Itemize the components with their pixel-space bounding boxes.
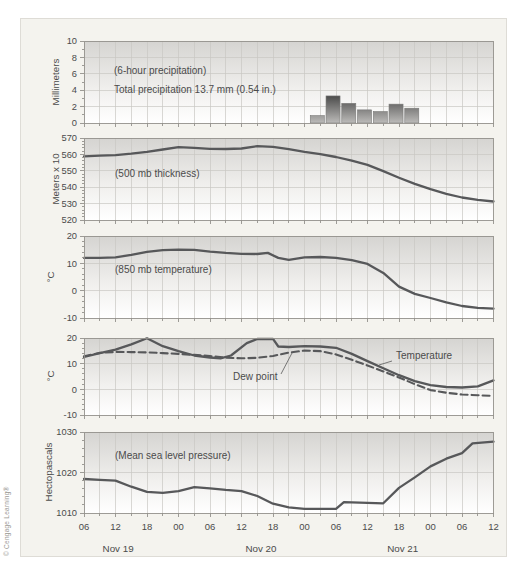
dew-point-label: Dew point: [233, 371, 278, 382]
date-label: Nov 20: [245, 543, 277, 554]
panel-500-mb-thickness: 520530540550560570Meters x 10(500 mb thi…: [50, 133, 494, 225]
panel-850-mb-temperature: -1001020°C(850 mb temperature): [45, 231, 494, 323]
x-tick-label: 06: [79, 521, 90, 532]
x-tick-label: 18: [394, 521, 405, 532]
y-axis-label: °C: [45, 371, 56, 382]
x-tick-label: 00: [299, 521, 310, 532]
copyright-label: © Cengage Learning®: [3, 486, 10, 556]
panel-annotation: (6-hour precipitation): [114, 65, 206, 76]
y-tick-label: 530: [61, 199, 77, 209]
x-tick-label: 12: [110, 521, 121, 532]
panel-mean-sea-level-pressure: 101010201030Hectopascals(Mean sea level …: [43, 427, 494, 518]
panel-annotation: (Mean sea level pressure): [115, 450, 231, 461]
x-tick-label: 12: [236, 521, 247, 532]
y-tick-label: 560: [61, 150, 77, 160]
y-tick-label: 520: [61, 215, 77, 225]
precip-bar: [326, 96, 340, 123]
panel-annotation: (850 mb temperature): [115, 264, 212, 275]
x-axis: 0612180006121800061218000612Nov 19Nov 20…: [79, 521, 499, 554]
panel-annotation: Total precipitation 13.7 mm (0.54 in.): [114, 84, 276, 95]
y-tick-label: 10: [67, 36, 77, 46]
y-tick-label: 6: [72, 69, 77, 79]
x-tick-label: 06: [331, 521, 342, 532]
x-tick-label: 00: [173, 521, 184, 532]
y-tick-label: 550: [61, 166, 77, 176]
y-tick-label: 0: [72, 286, 77, 296]
meteogram-figure: 0246810Millimeters(6-hour precipitation)…: [20, 18, 507, 557]
y-tick-label: 570: [61, 133, 77, 143]
precip-bar: [389, 104, 403, 123]
y-tick-label: 1020: [56, 468, 77, 478]
y-axis-label: Millimeters: [50, 58, 61, 105]
y-tick-label: 20: [67, 333, 77, 343]
y-tick-label: -10: [64, 313, 77, 323]
y-tick-label: 10: [67, 259, 77, 269]
x-tick-label: 12: [362, 521, 373, 532]
y-tick-label: -10: [64, 410, 77, 420]
y-tick-label: 1030: [56, 427, 77, 437]
y-tick-label: 4: [72, 85, 77, 95]
y-tick-label: 10: [67, 359, 77, 369]
panel-annotation: (500 mb thickness): [115, 168, 199, 179]
temperature-label: Temperature: [396, 350, 453, 361]
precip-bar: [342, 103, 356, 123]
y-axis-label: Hectopascals: [43, 442, 54, 501]
panel-6-hour-precipitation: 0246810Millimeters(6-hour precipitation)…: [50, 36, 494, 128]
y-tick-label: 0: [72, 118, 77, 128]
precip-bar: [358, 110, 372, 123]
x-tick-label: 12: [488, 521, 499, 532]
y-axis-label: Meters x 10: [50, 153, 61, 205]
y-axis-label: °C: [45, 272, 56, 283]
y-tick-label: 1010: [56, 508, 77, 518]
y-tick-label: 540: [61, 182, 77, 192]
x-tick-label: 00: [425, 521, 436, 532]
date-label: Nov 19: [103, 543, 134, 554]
date-label: Nov 21: [387, 543, 418, 554]
panel-temperature-and-dew-point: -1001020°CTemperatureDew point: [45, 333, 494, 420]
x-tick-label: 18: [142, 521, 153, 532]
meteogram-svg: 0246810Millimeters(6-hour precipitation)…: [21, 19, 508, 558]
precip-bar: [405, 108, 419, 123]
x-tick-label: 18: [268, 521, 279, 532]
y-tick-label: 8: [72, 53, 77, 63]
x-tick-label: 06: [457, 521, 468, 532]
precip-bar: [310, 116, 324, 123]
y-tick-label: 0: [72, 385, 77, 395]
x-tick-label: 06: [205, 521, 216, 532]
y-tick-label: 2: [72, 102, 77, 112]
precip-bar: [373, 112, 387, 123]
y-tick-label: 20: [67, 231, 77, 241]
